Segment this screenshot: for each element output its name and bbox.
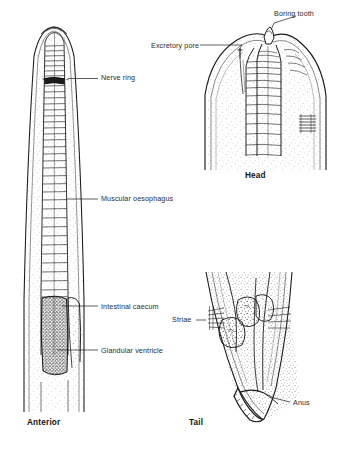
caption-anterior: Anterior — [27, 419, 60, 427]
caption-tail: Tail — [189, 419, 203, 427]
label-glandular-ventricle: Glandular ventricle — [101, 347, 163, 354]
panel-anterior — [20, 25, 98, 415]
label-boring-tooth: Boring tooth — [274, 10, 314, 17]
head-stipple — [200, 30, 332, 175]
label-intestinal-caecum: Intestinal caecum — [101, 303, 159, 310]
nematode-anatomy-figure — [0, 0, 355, 461]
boring-tooth — [264, 27, 274, 44]
label-excretory-pore: Excretory pore — [151, 42, 199, 49]
label-anus: Anus — [293, 399, 310, 406]
glandular-ventricle — [41, 296, 68, 375]
label-striae: Striae — [172, 316, 191, 323]
label-muscular-oesophagus: Muscular oesophagus — [101, 195, 173, 202]
nerve-ring-band — [43, 77, 69, 84]
label-nerve-ring: Nerve ring — [101, 74, 135, 81]
panel-head — [200, 16, 332, 175]
caption-head: Head — [245, 172, 266, 180]
